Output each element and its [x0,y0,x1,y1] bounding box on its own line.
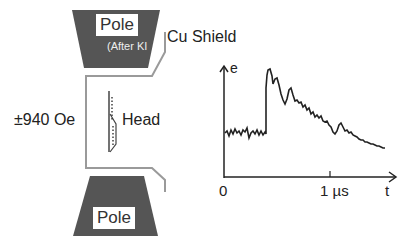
chart-axes [220,66,396,182]
signal-trace [225,69,385,148]
x-axis-label: t [385,183,389,198]
bottom-pole-label: Pole [93,207,135,229]
head-label: Head [122,112,160,128]
cu-shield-label: Cu Shield [167,29,236,45]
x-tick-1us: 1 µs [320,183,349,198]
top-pole-sublabel: (After KI [107,41,147,52]
top-pole-label: Pole [96,14,138,36]
head-icon [109,91,116,152]
field-label: ±940 Oe [14,112,75,128]
y-axis-label: e [230,61,238,75]
x-tick-0: 0 [219,183,227,198]
